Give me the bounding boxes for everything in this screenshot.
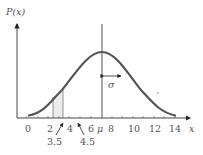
annotation-arrow-4-5 — [78, 123, 84, 135]
x-axis-label: x — [189, 123, 195, 134]
x-tick-label-10: 10 — [128, 123, 140, 134]
annotation-label-3-5: 3.5 — [47, 136, 62, 147]
x-tick-label-0: 0 — [25, 123, 31, 134]
x-tick-label-mu: μ — [97, 123, 103, 134]
normal-distribution-chart: σ P(x) x 0 2 4 6 μ 8 10 12 14 3.5 4.5 — [0, 0, 203, 155]
x-tick-label-14: 14 — [169, 123, 181, 134]
annotation-arrow-3-5 — [56, 123, 63, 135]
sigma-label: σ — [108, 79, 115, 90]
x-tick-label-12: 12 — [149, 123, 161, 134]
x-tick-label-4: 4 — [67, 123, 73, 134]
x-tick-label-6: 6 — [88, 123, 94, 134]
x-tick-label-8: 8 — [108, 123, 114, 134]
annotation-label-4-5: 4.5 — [80, 136, 95, 147]
y-axis-label: P(x) — [5, 6, 25, 17]
stray-dot — [157, 92, 158, 93]
x-tick-label-2: 2 — [47, 123, 53, 134]
